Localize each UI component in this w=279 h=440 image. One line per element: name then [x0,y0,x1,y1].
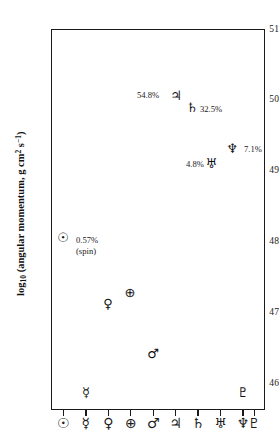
annotation-sun-spin: (spin) [76,246,96,256]
x-axis-label-uranus: ♅ [210,414,232,432]
x-axis-label-pluto: ♇ [243,414,265,432]
data-point-sun: ☉ [53,230,73,246]
data-point-earth: ⊕ [120,285,140,301]
data-point-mercury: ☿ [76,385,96,401]
data-point-mars: ♂ [143,346,163,362]
annotation-uranus-percent: 4.8% [186,159,204,169]
data-point-pluto: ♇ [233,385,253,401]
annotation-saturn-percent: 32.5% [200,104,222,114]
data-point-saturn: ♄ [182,100,202,116]
annotation-jupiter-percent: 54.8% [137,90,159,100]
x-axis-label-saturn: ♄ [187,414,209,432]
x-axis-label-earth: ⊕ [120,414,142,432]
y-axis-title: log10 (angular momentum, g cm2 s−1) [14,89,27,339]
x-axis-label-jupiter: ♃ [165,414,187,432]
data-point-uranus: ♅ [201,156,221,172]
x-axis-label-venus: ♀ [97,414,119,432]
angular-momentum-scatter-chart: log10 (angular momentum, g cm2 s−1) 51 5… [0,0,279,440]
x-axis-label-sun: ☉ [52,414,74,432]
annotation-sun-percent: 0.57% [76,235,98,245]
x-axis-label-mercury: ☿ [75,414,97,432]
x-axis-label-mars: ♂ [142,414,164,432]
data-point-neptune: ♆ [222,141,242,157]
annotation-neptune-percent: 7.1% [244,144,262,154]
data-point-venus: ♀ [98,296,118,312]
